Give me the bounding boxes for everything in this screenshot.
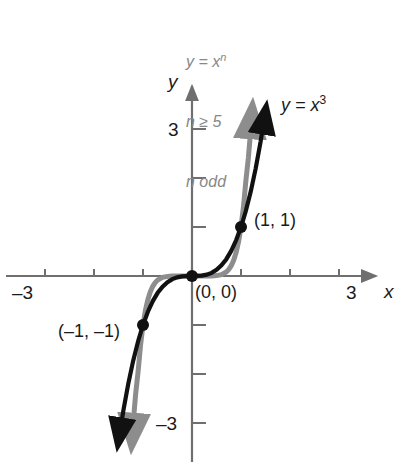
y-tick-label-top: 3 [168, 120, 179, 139]
x-tick-label-right: 3 [346, 283, 357, 302]
family-condition-parity: n odd [186, 172, 226, 192]
curve-family-annotation: y = xn n ≥ 5 n odd [186, 12, 226, 232]
point-label-origin: (0, 0) [195, 283, 237, 301]
y-tick-label-bottom: –3 [156, 414, 177, 433]
y-axis-label: y [168, 72, 178, 91]
curve-cubic-label: y = x3 [281, 96, 326, 114]
point-marker-neg-one [137, 319, 149, 331]
x-tick-label-left: –3 [12, 283, 33, 302]
point-label-one-one: (1, 1) [254, 211, 296, 229]
x-axis-label: x [384, 282, 394, 301]
point-marker-origin [186, 270, 198, 282]
family-condition-range: n ≥ 5 [186, 112, 226, 132]
point-label-neg-one: (–1, –1) [58, 322, 120, 340]
point-marker-one-one [235, 221, 247, 233]
graph-figure: y = xn n ≥ 5 n odd y x 3 –3 –3 3 (1, 1) … [0, 0, 407, 471]
family-equation: y = xn [186, 52, 226, 72]
